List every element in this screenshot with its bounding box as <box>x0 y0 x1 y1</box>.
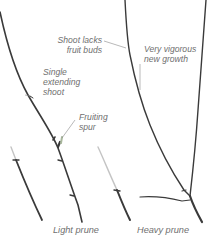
caption-heavy-prune: Heavy prune <box>137 225 189 235</box>
annotation-line: Very vigorous <box>144 44 196 54</box>
annotation-shoot-lacks-fruit-buds: Shoot lacks fruit buds <box>54 35 102 55</box>
pruning-diagram: Shoot lacks fruit buds Very vigorous new… <box>0 0 211 241</box>
heavy-prune-result-branch <box>125 0 206 222</box>
annotation-very-vigorous-new-growth: Very vigorous new growth <box>144 44 196 64</box>
caption-light-prune: Light prune <box>53 225 99 235</box>
annotation-line: fruit buds <box>54 45 102 55</box>
annotation-fruiting-spur: Fruiting spur <box>79 112 108 132</box>
annotation-line: Single <box>43 67 80 77</box>
annotation-line: Fruiting <box>79 112 108 122</box>
annotation-line: extending <box>43 77 80 87</box>
annotation-line: new growth <box>144 54 196 64</box>
light-prune-cut-branch <box>11 147 42 220</box>
annotation-line: spur <box>79 122 108 132</box>
annotation-single-extending-shoot: Single extending shoot <box>43 67 80 97</box>
heavy-prune-cut-branch <box>98 147 130 220</box>
annotation-line: shoot <box>43 87 80 97</box>
annotation-line: Shoot lacks <box>54 35 102 45</box>
fruiting-spur-bud <box>61 137 62 143</box>
